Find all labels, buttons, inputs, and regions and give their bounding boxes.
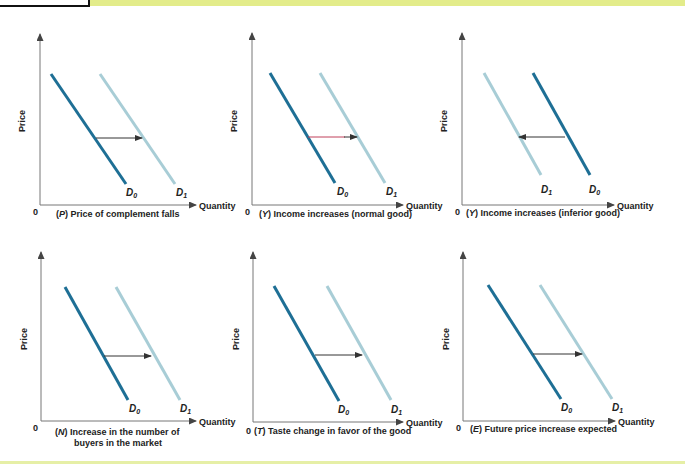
d1-label: D1 — [612, 402, 623, 414]
origin-label: 0 — [246, 426, 251, 436]
panel-price-of-complement-falls: Price Quantity 0 D0 D1 (P) Price of comp… — [17, 34, 236, 219]
panel-caption: (N) Increase in the number of — [55, 427, 181, 437]
d1-label: D1 — [180, 403, 191, 415]
demand-shift-diagrams: Price Quantity 0 D0 D1 (P) Price of comp… — [0, 0, 685, 464]
x-axis-label: Quantity — [199, 201, 236, 211]
d0-curve — [270, 73, 335, 183]
x-axis-label: Quantity — [618, 417, 655, 427]
panel-increase-in-number-of-buyers: Price Quantity 0 D0 D1 (N) Increase in t… — [19, 252, 236, 448]
origin-label: 0 — [33, 423, 38, 433]
d0-curve — [274, 286, 339, 401]
panel-future-price-increase-expected: Price Quantity 0 D0 D1 (E) Future price … — [441, 252, 655, 434]
y-axis-label: Price — [229, 110, 239, 132]
y-axis-label: Price — [19, 328, 29, 350]
panel-caption-line2: buyers in the market — [74, 438, 162, 448]
d1-curve — [320, 73, 385, 183]
d1-label: D1 — [176, 187, 187, 199]
origin-label: 0 — [245, 207, 250, 217]
d1-label: D1 — [541, 184, 552, 196]
d0-label: D0 — [126, 187, 137, 199]
x-axis-label: Quantity — [617, 201, 654, 211]
panel-caption: (Y) Income increases (normal good) — [259, 209, 412, 219]
d1-label: D1 — [386, 186, 397, 198]
d1-curve — [100, 74, 175, 184]
y-axis-label: Price — [441, 328, 451, 350]
y-axis-label: Price — [231, 328, 241, 350]
d0-curve — [51, 74, 126, 184]
origin-label: 0 — [33, 207, 38, 217]
y-axis-label: Price — [439, 110, 449, 132]
panel-caption: (Y) Income increases (inferior good) — [466, 208, 620, 218]
panel-income-increases-inferior-good: Price Quantity 0 D1 D0 (Y) Income increa… — [439, 33, 654, 218]
d1-curve — [484, 73, 541, 175]
d1-label: D1 — [391, 404, 402, 416]
d0-curve — [533, 73, 590, 175]
y-axis-label: Price — [17, 110, 27, 132]
panel-caption: (T) Taste change in favor of the good — [254, 426, 411, 436]
origin-label: 0 — [456, 423, 461, 433]
panel-taste-change-in-favor: Price Quantity 0 D0 D1 (T) Taste change … — [231, 252, 443, 436]
d0-label: D0 — [338, 404, 349, 416]
d0-label: D0 — [561, 402, 572, 414]
d0-label: D0 — [337, 186, 348, 198]
d0-label: D0 — [129, 403, 140, 415]
d0-label: D0 — [589, 184, 600, 196]
panel-caption: (E) Future price increase expected — [470, 424, 617, 434]
d1-curve — [116, 287, 180, 400]
x-axis-label: Quantity — [199, 417, 236, 427]
panel-caption: (P) Price of complement falls — [56, 209, 180, 219]
d0-curve — [65, 287, 128, 400]
origin-label: 0 — [455, 207, 460, 217]
d1-curve — [327, 286, 391, 400]
panel-income-increases-normal-good: Price Quantity 0 D0 D1 (Y) Income increa… — [229, 33, 443, 219]
x-axis-label: Quantity — [406, 418, 443, 428]
